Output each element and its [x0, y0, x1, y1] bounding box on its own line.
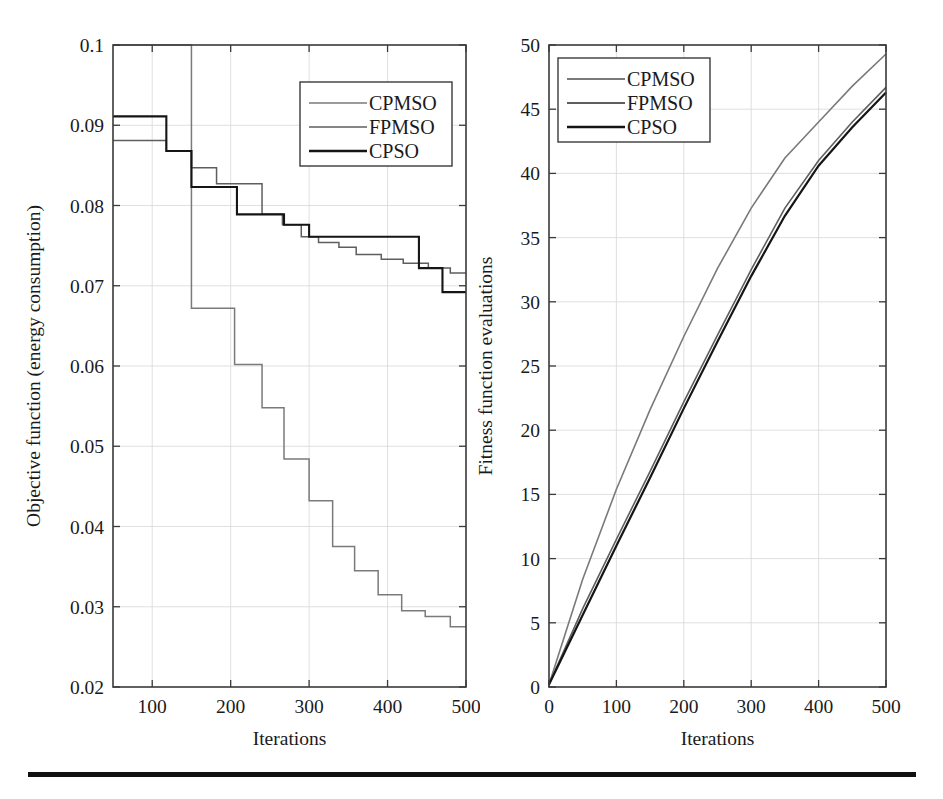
series-line-cpso — [549, 93, 886, 685]
y-tick-label: 0.07 — [70, 276, 104, 297]
legend-label: CPMSO — [627, 68, 695, 90]
legend: CPMSOFPMSOCPSO — [300, 82, 452, 166]
legend-label: FPMSO — [627, 92, 693, 114]
y-tick-label: 45 — [521, 99, 541, 120]
x-axis-title: Iterations — [681, 728, 755, 749]
y-tick-label: 0.05 — [70, 436, 104, 457]
figure-two-panel-convergence: 0.020.030.040.050.060.070.080.090.110020… — [0, 0, 943, 799]
x-tick-label: 500 — [871, 696, 900, 717]
y-axis-title: Fitness function evaluations — [475, 257, 496, 476]
chart-panel-objective-function: 0.020.030.040.050.060.070.080.090.110020… — [0, 0, 480, 760]
y-tick-label: 0.09 — [70, 115, 104, 136]
x-tick-label: 200 — [669, 696, 698, 717]
left-chart-svg: 0.020.030.040.050.060.070.080.090.110020… — [0, 0, 480, 760]
y-tick-label: 0.03 — [70, 597, 104, 618]
series-group — [549, 54, 886, 684]
x-tick-label: 100 — [602, 696, 631, 717]
y-tick-label: 0.06 — [70, 356, 104, 377]
legend-label: FPMSO — [369, 116, 435, 138]
series-line-fpmso — [549, 87, 886, 684]
x-tick-label: 300 — [294, 696, 323, 717]
footer-horizontal-rule — [28, 772, 916, 777]
legend-label: CPSO — [627, 116, 677, 138]
y-axis-title: Objective function (energy consumption) — [23, 205, 45, 527]
y-tick-label: 0.1 — [80, 35, 104, 56]
legend-label: CPMSO — [369, 92, 437, 114]
y-tick-label: 40 — [521, 163, 541, 184]
x-tick-label: 400 — [804, 696, 833, 717]
y-tick-label: 0 — [530, 677, 540, 698]
y-tick-label: 35 — [521, 228, 541, 249]
legend-label: CPSO — [369, 140, 419, 162]
y-tick-label: 30 — [521, 292, 541, 313]
y-tick-label: 0.02 — [70, 677, 104, 698]
y-tick-label: 5 — [530, 613, 540, 634]
y-tick-label: 15 — [521, 484, 541, 505]
x-tick-label: 300 — [737, 696, 766, 717]
legend: CPMSOFPMSOCPSO — [558, 58, 710, 142]
x-tick-label: 200 — [216, 696, 245, 717]
right-chart-svg: 051015202530354045500100200300400500Iter… — [470, 0, 943, 760]
x-tick-label: 0 — [544, 696, 554, 717]
y-tick-label: 50 — [521, 35, 541, 56]
series-line-cpmso — [549, 54, 886, 684]
y-tick-label: 0.04 — [70, 517, 104, 538]
y-tick-label: 10 — [521, 549, 541, 570]
x-axis-title: Iterations — [253, 728, 327, 749]
chart-panel-fitness-evaluations: 051015202530354045500100200300400500Iter… — [470, 0, 943, 760]
x-tick-label: 400 — [373, 696, 402, 717]
y-tick-label: 25 — [521, 356, 541, 377]
y-tick-label: 20 — [521, 420, 541, 441]
y-tick-label: 0.08 — [70, 196, 104, 217]
x-tick-label: 100 — [138, 696, 167, 717]
